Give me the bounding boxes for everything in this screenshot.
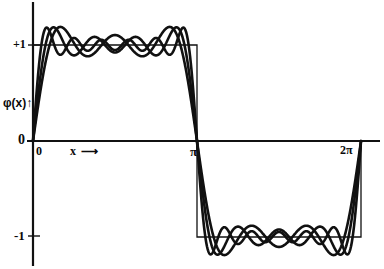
y-tick-label-plus-one: +1	[13, 38, 26, 50]
fourier-convergence-plot	[0, 0, 384, 269]
y-axis-label: φ(x)↑	[3, 97, 32, 109]
figure-canvas: +1 0 -1 0 π 2π φ(x)↑ x ⟶	[0, 0, 384, 269]
x-tick-label-two-pi: 2π	[340, 144, 353, 156]
x-axis-label: x ⟶	[70, 145, 99, 157]
x-tick-label-pi: π	[190, 145, 197, 158]
x-tick-label-zero: 0	[36, 145, 42, 157]
y-tick-label-zero: 0	[18, 133, 25, 147]
y-tick-label-minus-one: -1	[14, 229, 25, 242]
